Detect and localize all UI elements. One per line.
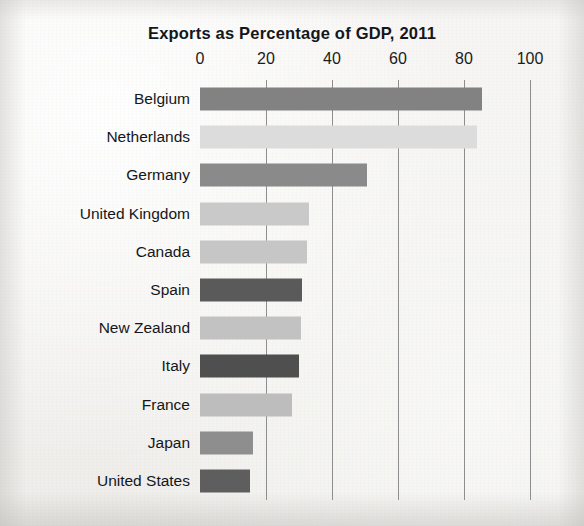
bar (200, 317, 301, 340)
bar-rows: BelgiumNetherlandsGermanyUnited KingdomC… (0, 80, 584, 500)
bar (200, 88, 482, 111)
x-tick-label: 0 (196, 50, 205, 68)
bar-row: Japan (0, 424, 584, 462)
bar (200, 240, 307, 263)
bar (200, 469, 250, 492)
bar-row: Germany (0, 156, 584, 194)
bar-row: United States (0, 462, 584, 500)
bar-row: France (0, 385, 584, 423)
bar (200, 431, 253, 454)
x-tick-label: 60 (389, 50, 407, 68)
category-label: United States (97, 472, 190, 490)
bar-row: United Kingdom (0, 195, 584, 233)
x-tick-label: 20 (257, 50, 275, 68)
bar (200, 278, 302, 301)
category-label: Canada (136, 243, 190, 261)
chart-page: Exports as Percentage of GDP, 2011 02040… (0, 0, 584, 526)
category-label: Germany (126, 166, 190, 184)
category-label: Japan (148, 434, 190, 452)
category-label: New Zealand (99, 319, 190, 337)
bar-row: Netherlands (0, 118, 584, 156)
category-label: Spain (150, 281, 190, 299)
category-label: Netherlands (106, 128, 190, 146)
category-label: France (142, 396, 190, 414)
x-axis-tick-labels: 020406080100 (0, 50, 584, 74)
x-tick-label: 80 (455, 50, 473, 68)
bar-row: New Zealand (0, 309, 584, 347)
bar (200, 202, 309, 225)
bar-row: Spain (0, 271, 584, 309)
category-label: Italy (162, 357, 190, 375)
bar (200, 355, 299, 378)
bar-row: Canada (0, 233, 584, 271)
bar-row: Belgium (0, 80, 584, 118)
x-tick-label: 100 (517, 50, 544, 68)
bar-row: Italy (0, 347, 584, 385)
category-label: United Kingdom (80, 205, 190, 223)
chart-title: Exports as Percentage of GDP, 2011 (0, 24, 584, 43)
category-label: Belgium (134, 90, 190, 108)
bar (200, 126, 477, 149)
x-tick-label: 40 (323, 50, 341, 68)
bar (200, 393, 292, 416)
bar (200, 164, 367, 187)
